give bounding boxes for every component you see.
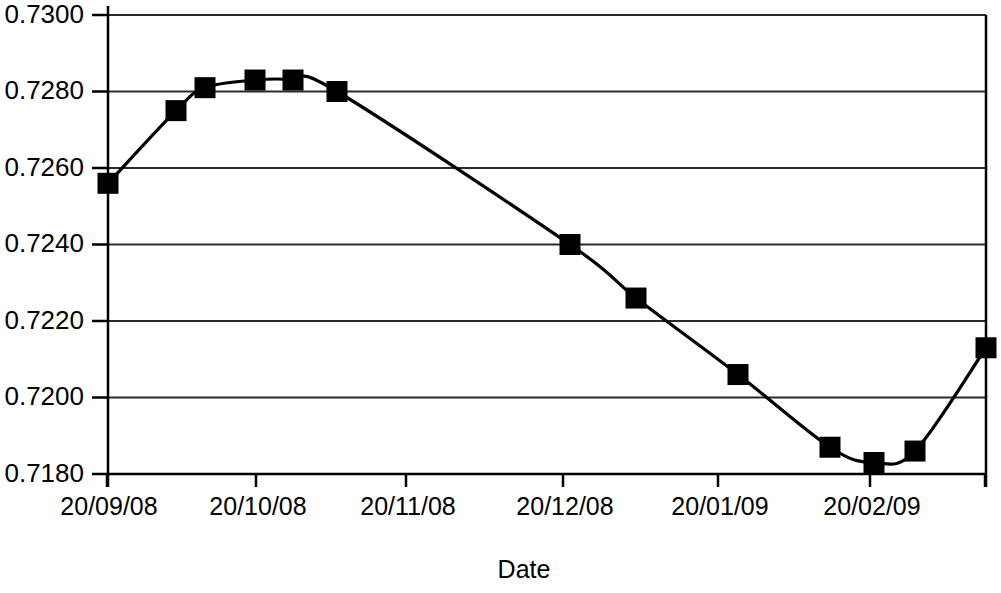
data-point-marker [166,100,187,121]
data-point-marker [976,337,997,358]
data-point-marker [283,70,304,91]
data-point-marker [626,288,647,309]
x-tick-label: 20/10/08 [209,492,306,520]
data-point-marker [327,81,348,102]
y-tick-label: 0.7220 [4,305,84,335]
data-point-marker [728,364,749,385]
y-tick-label: 0.7240 [4,228,84,258]
y-tick-label: 0.7300 [4,0,84,29]
chart-figure: 0.73000.72800.72600.72400.72200.72000.71… [0,0,1001,593]
y-tick-label: 0.7180 [4,458,84,488]
x-axis-title: Date [498,555,551,583]
data-point-marker [560,234,581,255]
data-point-marker [905,441,926,462]
line-chart-canvas: 0.73000.72800.72600.72400.72200.72000.71… [0,0,1001,593]
x-tick-label: 20/11/08 [360,492,455,520]
x-tick-label: 20/01/09 [671,492,768,520]
data-point-marker [864,452,885,473]
data-point-marker [98,173,119,194]
x-tick-label: 20/12/08 [516,492,613,520]
data-point-marker [820,437,841,458]
x-tick-label: 20/02/09 [823,492,920,520]
data-point-marker [195,77,216,98]
y-tick-label: 0.7280 [4,75,84,105]
data-point-marker [245,70,266,91]
y-tick-label: 0.7200 [4,381,84,411]
y-tick-label: 0.7260 [4,152,84,182]
x-tick-label: 20/09/08 [60,492,157,520]
